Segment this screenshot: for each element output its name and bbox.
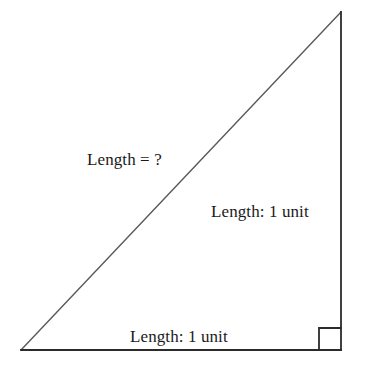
vertical-leg-length-label: Length: 1 unit bbox=[211, 203, 309, 220]
hypotenuse-line bbox=[21, 12, 341, 350]
diagram-canvas: Length = ? Length: 1 unit Length: 1 unit bbox=[0, 0, 368, 372]
horizontal-leg-length-label: Length: 1 unit bbox=[130, 328, 228, 345]
right-triangle-figure bbox=[0, 0, 368, 372]
hypotenuse-length-label: Length = ? bbox=[87, 151, 162, 168]
right-angle-marker-icon bbox=[319, 328, 341, 350]
